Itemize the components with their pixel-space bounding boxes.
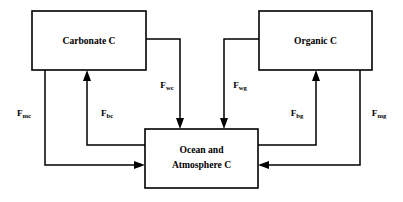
flux-label-fbc: Fbc (101, 108, 113, 119)
flux-arrowhead-fmc (134, 161, 145, 169)
ocean-atmosphere-box-label-line1: Ocean and (180, 144, 225, 155)
organic-box-label: Organic C (294, 35, 337, 46)
flux-label-fwg: Fwg (233, 80, 247, 91)
flux-label-fwc: Fwc (160, 80, 173, 91)
flux-label-fmc: Fmc (17, 108, 31, 119)
flux-label-fbg: Fbg (291, 108, 304, 119)
flux-arrowhead-fwg (220, 118, 228, 129)
flux-path-fbc (87, 79, 145, 145)
flux-path-fmc (45, 70, 136, 165)
carbonate-box-label: Carbonate C (62, 35, 115, 46)
flux-arrowhead-fbg (312, 70, 320, 81)
flux-path-fbg (258, 79, 316, 145)
flux-arrowhead-fmg (258, 161, 269, 169)
flux-arrowhead-fwc (176, 118, 184, 129)
diagram-canvas: Carbonate C Organic C Ocean and Atmosphe… (0, 0, 403, 202)
flux-arrowhead-fbc (83, 70, 91, 81)
carbon-cycle-diagram: Carbonate C Organic C Ocean and Atmosphe… (0, 0, 403, 202)
flux-label-fmg: Fmg (372, 108, 387, 119)
flux-path-fwg (224, 39, 259, 120)
ocean-atmosphere-box-label-line2: Atmosphere C (172, 159, 231, 170)
flux-path-fmg (267, 70, 360, 165)
